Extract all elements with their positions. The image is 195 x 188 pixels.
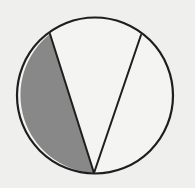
circle-diagram xyxy=(0,0,195,188)
